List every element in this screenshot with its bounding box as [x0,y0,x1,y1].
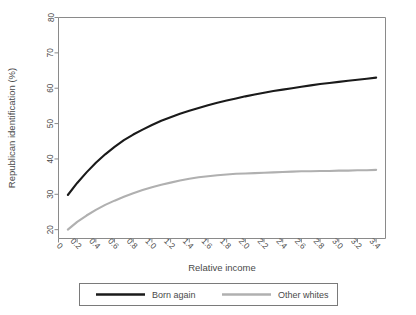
y-tick-label: 70 [47,48,56,58]
chart-figure: 20304050607080 00.20.40.60.81.01.21.41.6… [0,0,416,315]
legend-label-born-again: Born again [152,290,196,300]
chart-svg: 20304050607080 00.20.40.60.81.01.21.41.6… [0,0,416,315]
legend-label-other-whites: Other whites [278,290,329,300]
y-tick-label: 80 [47,13,56,23]
y-tick-label: 50 [47,119,56,129]
y-tick-label: 40 [47,154,56,164]
y-tick-label: 60 [47,83,56,93]
x-axis-title: Relative income [188,262,256,273]
y-axis-title: Republican identification (%) [6,68,17,188]
chart-legend: Born again Other whites [80,284,338,306]
y-tick-label: 30 [47,189,56,199]
y-tick-label: 20 [47,225,56,235]
